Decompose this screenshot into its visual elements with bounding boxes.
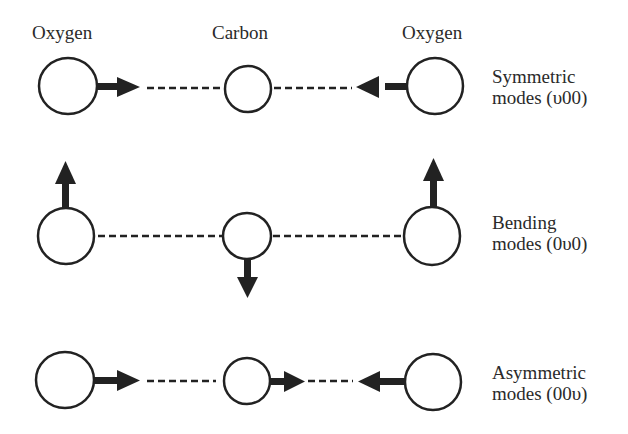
co2-vibrational-modes-diagram: Oxygen Carbon Oxygen Symmetric modes (υ0…	[0, 0, 628, 434]
arrow-right-icon	[270, 371, 305, 392]
carbon-atom	[223, 213, 271, 259]
right-oxygen-atom	[404, 207, 460, 265]
right-oxygen-atom	[405, 354, 461, 410]
carbon-label: Carbon	[212, 23, 268, 42]
arrow-up-icon	[423, 158, 444, 208]
mode-notation: modes (0υ0)	[492, 233, 587, 254]
asymmetric-mode-row	[36, 352, 461, 410]
bending-mode-row	[38, 158, 460, 298]
right-oxygen-label: Oxygen	[402, 23, 462, 42]
arrow-left-icon	[358, 371, 406, 392]
carbon-atom	[225, 66, 271, 112]
arrow-right-icon	[97, 77, 140, 97]
arrow-left-icon	[356, 76, 407, 98]
mode-notation: modes (00υ)	[492, 383, 587, 404]
symmetric-mode-row	[39, 58, 463, 114]
bending-mode-label: Bending modes (0υ0)	[492, 212, 587, 254]
mode-title: Bending	[492, 212, 587, 233]
carbon-atom	[224, 358, 270, 404]
left-oxygen-atom	[36, 352, 94, 408]
left-oxygen-label: Oxygen	[32, 23, 92, 42]
arrow-right-icon	[94, 370, 140, 391]
mode-title: Asymmetric	[492, 362, 587, 383]
asymmetric-mode-label: Asymmetric modes (00υ)	[492, 362, 587, 404]
mode-title: Symmetric	[492, 66, 587, 87]
arrow-up-icon	[55, 161, 76, 208]
left-oxygen-atom	[38, 208, 94, 264]
left-oxygen-atom	[39, 58, 97, 114]
mode-notation: modes (υ00)	[492, 87, 587, 108]
right-oxygen-atom	[407, 58, 463, 114]
symmetric-mode-label: Symmetric modes (υ00)	[492, 66, 587, 108]
arrow-down-icon	[237, 258, 258, 298]
